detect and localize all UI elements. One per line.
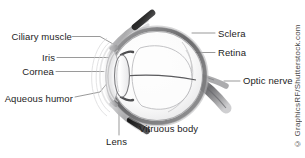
label-lens: Lens <box>106 137 127 147</box>
label-retina: Retina <box>218 48 246 58</box>
label-vitruous-body: Vitruous body <box>139 124 198 134</box>
label-cornea: Cornea <box>2 67 54 77</box>
label-iris: Iris <box>2 53 55 63</box>
lens-shape <box>115 55 130 97</box>
label-optic-nerve: Optic nerve <box>243 76 293 86</box>
label-aqueous-humor: Aqueous humor <box>2 94 73 104</box>
copyright-credit: © GraphicsRF/Shutterstock.com <box>293 16 305 148</box>
label-ciliary-muscle: Ciliary muscle <box>2 32 72 42</box>
label-sclera: Sclera <box>218 29 246 39</box>
eye-anatomy-diagram: Ciliary muscle Iris Cornea Aqueous humor… <box>0 0 305 158</box>
